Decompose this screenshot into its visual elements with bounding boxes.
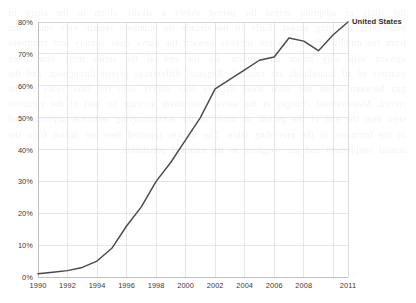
horizontal-gridlines — [38, 22, 348, 245]
x-axis-tick-label: 1994 — [89, 281, 106, 290]
series-line-united-states — [38, 22, 348, 274]
x-axis-tick-label: 2002 — [207, 281, 224, 290]
y-axis-tick-label: 30% — [3, 177, 33, 186]
x-axis-tick-label: 2000 — [177, 281, 194, 290]
y-axis-tick-label: 70% — [3, 49, 33, 58]
y-axis-tick-label: 0% — [3, 273, 33, 282]
x-axis-tick-label: 2011 — [340, 281, 356, 290]
x-axis-tick-label: 1990 — [30, 281, 47, 290]
y-axis-tick-label: 40% — [3, 145, 33, 154]
y-axis-tick-label: 50% — [3, 113, 33, 122]
x-axis-tick-label: 1992 — [59, 281, 76, 290]
y-axis-tick-label: 20% — [3, 209, 33, 218]
x-axis-tick-label: 1998 — [148, 281, 165, 290]
x-axis-tick-label: 1996 — [118, 281, 135, 290]
x-axis-tick-label: 2004 — [236, 281, 253, 290]
chart-svg — [0, 0, 416, 303]
x-axis-tick-label: 2006 — [266, 281, 283, 290]
legend-label-united-states: United States — [352, 17, 402, 26]
y-axis-tick-label: 60% — [3, 81, 33, 90]
y-axis-tick-label: 80% — [3, 18, 33, 27]
x-axis-tick-label: 2008 — [295, 281, 312, 290]
line-chart: 0%10%20%30%40%50%60%70%80% 1990199219941… — [0, 0, 416, 303]
y-axis-tick-label: 10% — [3, 241, 33, 250]
